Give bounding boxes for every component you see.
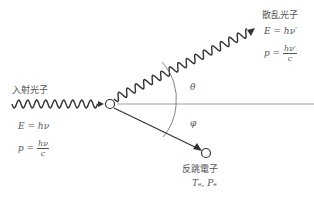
phi-label: φ xyxy=(190,118,196,128)
recoil-electron xyxy=(202,149,211,158)
incident-momentum-numerator: hν xyxy=(37,139,49,149)
target-electron xyxy=(106,100,115,109)
incident-photon-label: 入射光子 xyxy=(12,83,48,96)
incident-momentum-lhs: p = xyxy=(18,143,34,153)
scattered-photon-label: 散乱光子 xyxy=(262,8,298,21)
incident-energy: E = hν xyxy=(18,121,49,131)
incident-momentum: p = hν c xyxy=(18,139,49,158)
scattered-momentum-fraction: hν′ c xyxy=(283,44,297,63)
incident-momentum-denominator: c xyxy=(37,149,49,158)
scattered-momentum-denominator: c xyxy=(283,54,297,63)
incident-arrowhead xyxy=(98,101,104,107)
incident-momentum-fraction: hν c xyxy=(37,139,49,158)
scattered-energy: E = hν′ xyxy=(264,26,297,36)
incident-photon-wave xyxy=(12,100,98,108)
scattered-photon-wave xyxy=(114,29,247,102)
recoil-arrowhead xyxy=(193,143,202,151)
scattered-momentum: p = hν′ c xyxy=(264,44,297,63)
recoil-electron-label: 反跳電子 xyxy=(182,162,218,175)
scattered-momentum-numerator: hν′ xyxy=(283,44,297,54)
recoil-electron-quantities: Tₑ, Pₑ xyxy=(192,178,217,188)
scattered-arrowhead xyxy=(247,28,255,36)
scattered-momentum-lhs: p = xyxy=(264,48,280,58)
recoil-electron-path xyxy=(114,108,199,149)
theta-label: θ xyxy=(190,82,195,92)
